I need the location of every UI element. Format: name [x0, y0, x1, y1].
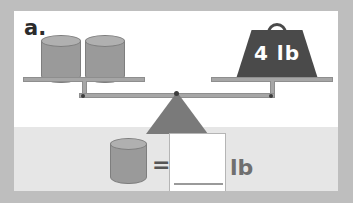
weight-label: 4 lb: [236, 43, 318, 63]
beam-joint-right: [269, 94, 273, 98]
cylinder-top-ellipse: [110, 138, 147, 150]
balance-scale: 4 lb: [14, 11, 338, 136]
cylinder-icon-2: [85, 35, 125, 83]
cylinder-body: [110, 144, 147, 184]
equation-row: = lb: [14, 127, 338, 191]
unit-label: lb: [230, 157, 253, 179]
weight-block-icon: 4 lb: [236, 23, 318, 79]
worksheet-page: a. 4 lb: [0, 0, 353, 203]
answer-writing-line: [174, 183, 223, 185]
cylinder-icon-1: [41, 35, 81, 83]
answer-input-box[interactable]: [169, 133, 226, 191]
cylinder-icon-unknown: [110, 138, 147, 184]
beam-joint-left: [81, 94, 85, 98]
cylinder-top-ellipse: [41, 35, 81, 47]
fulcrum-pivot-dot: [174, 91, 179, 96]
cylinder-top-ellipse: [85, 35, 125, 47]
problem-card: a. 4 lb: [14, 11, 338, 191]
equals-sign: =: [152, 154, 170, 176]
